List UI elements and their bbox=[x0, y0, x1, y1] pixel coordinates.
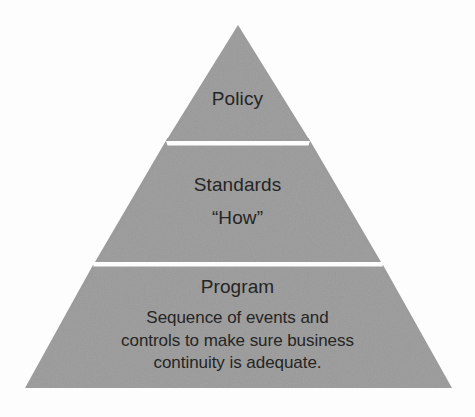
pyramid-diagram: Policy Standards “How” Program Sequence … bbox=[0, 0, 475, 417]
pyramid-shape bbox=[0, 0, 475, 417]
pyramid-divider-upper bbox=[166, 141, 310, 146]
pyramid-divider-lower bbox=[93, 262, 383, 267]
